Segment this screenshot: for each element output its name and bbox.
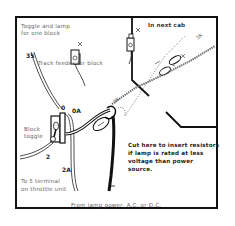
cut-note-line3: voltage than power	[128, 158, 193, 165]
inset-boundary-left	[132, 17, 149, 96]
title-label-line2: for one block	[21, 30, 60, 37]
inset-label: In next cab	[148, 22, 185, 29]
inset-boundary-bottom	[166, 112, 217, 127]
next-cab-lamp	[155, 61, 175, 77]
cut-note-line1: Cut here to insert resistors	[128, 142, 219, 149]
throttle-label-line1: To 5 terminal	[21, 178, 60, 185]
block-toggle-switch	[51, 113, 66, 143]
throttle-label-line2: on throttle unit	[21, 186, 66, 193]
cut-note-line2: if lamp is rated at less	[128, 150, 203, 157]
block-toggle-label-line2: toggle	[24, 133, 43, 140]
terminal-0: 0	[61, 104, 65, 111]
terminal-2a: 2A	[62, 166, 71, 173]
terminal-0a: 0A	[72, 107, 81, 114]
terminal-2: 2	[46, 153, 50, 160]
block-toggle-label-line1: Block	[24, 126, 40, 133]
track-feeder-label: Track feeder for block	[38, 60, 103, 67]
title-label-line1: Toggle and lamp	[21, 23, 70, 30]
terminal-35: 35	[26, 52, 34, 59]
cut-note-line4: source.	[128, 166, 153, 173]
power-source-label: From lamp power, A.C. or D.C.	[71, 202, 161, 209]
